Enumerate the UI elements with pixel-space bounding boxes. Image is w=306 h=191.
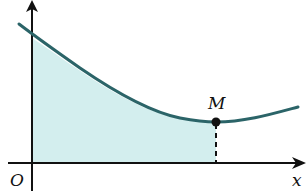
x-axis-label: x <box>292 172 302 189</box>
graph-svg <box>0 0 306 191</box>
origin-label: O <box>10 172 24 189</box>
point-m-label: M <box>208 95 225 112</box>
diagram-canvas: M O x <box>0 0 306 191</box>
shaded-region <box>32 38 216 163</box>
point-m <box>212 118 221 127</box>
